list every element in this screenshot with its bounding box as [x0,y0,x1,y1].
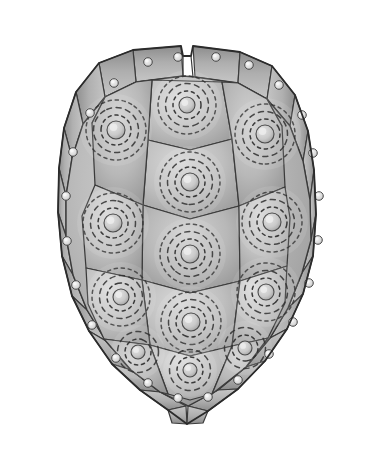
marginal-pore-highlight [70,149,73,152]
marginal-pore-highlight [175,54,178,57]
marginal-pore-highlight [246,62,249,65]
marginal-pore-highlight [175,395,178,398]
illustration-canvas: Turtle Carapace Dorsal View [0,0,371,458]
areola-highlight [260,286,267,293]
areola-highlight [184,248,192,256]
marginal-pore-highlight [276,82,279,85]
marginal-pore-highlight [145,59,148,62]
marginal-pore-highlight [111,80,114,83]
areola-highlight [107,217,115,225]
marginal-pore-highlight [113,355,116,358]
marginal-pore-highlight [235,377,238,380]
marginal-pore-highlight [64,238,67,241]
marginal-pore-highlight [73,282,76,285]
marginal-pore-highlight [205,394,208,397]
areola-highlight [185,365,191,371]
areola-highlight [184,176,192,184]
areola-highlight [110,124,118,132]
areola-highlight [266,216,274,224]
areola-highlight [115,291,122,298]
marginal-pore-highlight [63,193,66,196]
areola-highlight [181,99,188,106]
marginal-pore-highlight [316,193,319,196]
marginal-pore-highlight [315,237,318,240]
turtle-carapace-figure [0,0,371,458]
areola-highlight [259,128,267,136]
marginal-pore-highlight [145,380,148,383]
areola-highlight [185,316,193,324]
areola-highlight [133,347,139,353]
marginal-pore-highlight [87,110,90,113]
marginal-pore-highlight [213,54,216,57]
marginal-pore-highlight [89,322,92,325]
growth-rings-costal-right-1 [229,98,301,170]
growth-rings-costal-right-3 [231,257,301,327]
areola-highlight [240,343,246,349]
